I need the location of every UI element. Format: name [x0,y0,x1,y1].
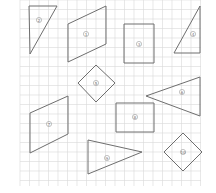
shape-square-diamond-5: 5 [78,65,115,102]
shape-label: 8 [134,115,137,120]
shape-label: 3 [138,42,141,47]
shape-right-triangle-4: 4 [174,6,200,53]
shape-parallelogram-2: 1 [68,6,106,62]
grid-lines [20,0,201,186]
shape-label: 4 [192,32,195,37]
shape-label: 9 [106,156,109,161]
right-triangle-outline [174,6,200,53]
shapes-layer: 21345678910 [29,6,202,174]
shape-right-triangle-1: 2 [29,6,57,54]
shape-label: 2 [38,18,41,23]
shape-label: 10 [180,150,186,155]
right-triangle-outline [29,6,57,54]
shape-label: 6 [181,90,184,95]
grid-worksheet: 21345678910 [0,0,216,193]
shape-label: 1 [85,32,88,37]
shape-label: 5 [95,81,98,86]
shape-rectangle-8: 8 [116,103,154,132]
shape-label: 7 [48,122,51,127]
